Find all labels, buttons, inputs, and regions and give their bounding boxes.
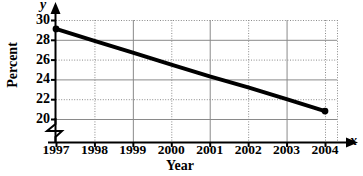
data-point-marker: [322, 108, 329, 115]
vertical-gridlines: [95, 20, 338, 142]
y-axis-break-symbol: [47, 118, 62, 142]
data-series-line: [56, 29, 325, 111]
plot-area: [0, 0, 363, 176]
horizontal-gridlines: [56, 21, 337, 120]
data-point-marker: [53, 26, 60, 33]
x-axis-arrowhead: [346, 138, 358, 148]
y-axis-arrowhead: [51, 2, 61, 14]
chart-figure: Percent Year y x 302826242220 1997199819…: [0, 0, 363, 176]
